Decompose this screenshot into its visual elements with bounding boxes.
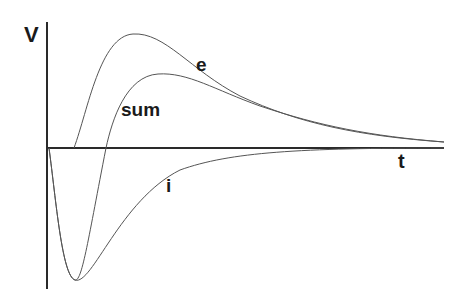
curve-sum-label: sum: [121, 100, 160, 119]
curve-sum: [49, 74, 444, 280]
curve-i: [49, 148, 444, 280]
y-axis-label: V: [24, 24, 39, 46]
x-axis-label: t: [398, 151, 405, 171]
curve-e-label: e: [196, 55, 207, 74]
curve-i-label: i: [166, 176, 171, 195]
